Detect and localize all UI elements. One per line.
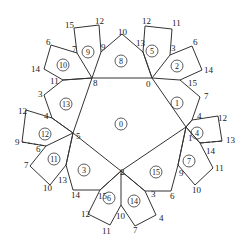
face-label: 6 bbox=[107, 194, 111, 203]
vertex-label: 14 bbox=[31, 64, 41, 74]
vertex-label: 9 bbox=[179, 168, 184, 178]
vertex-label: 1 bbox=[188, 133, 193, 143]
vertex-label: 7 bbox=[204, 91, 209, 101]
vertex-label: 6 bbox=[36, 144, 41, 154]
vertex-label: 2 bbox=[120, 167, 125, 177]
vertex-label: 3 bbox=[171, 43, 176, 53]
vertex-label: 4 bbox=[44, 111, 49, 121]
face-label: 15 bbox=[152, 168, 160, 177]
vertex-label: 13 bbox=[226, 135, 236, 145]
vertex-label: 11 bbox=[172, 18, 181, 28]
vertex-label: 15 bbox=[65, 20, 75, 30]
vertex-label: 6 bbox=[170, 191, 175, 201]
vertex-label: 10 bbox=[192, 185, 202, 195]
face-label: 7 bbox=[187, 157, 191, 166]
face-label: 14 bbox=[130, 197, 138, 206]
face-label: 1 bbox=[175, 99, 179, 108]
vertex-label: 11 bbox=[50, 76, 59, 86]
vertex-labels: 0812510913151271211361415741213141191063… bbox=[15, 16, 236, 236]
vertex-label: 10 bbox=[118, 27, 128, 37]
vertex-label: 3 bbox=[38, 89, 43, 99]
vertex-label: 12 bbox=[95, 16, 104, 26]
vertex-label: 12 bbox=[218, 113, 227, 123]
vertex-label: 13 bbox=[136, 38, 146, 48]
vertex-label: 12 bbox=[18, 106, 27, 116]
face-label: 9 bbox=[86, 48, 90, 57]
vertex-label: 4 bbox=[197, 111, 202, 121]
vertex-label: 12 bbox=[142, 16, 151, 26]
face-label: 3 bbox=[82, 166, 86, 175]
face-label: 12 bbox=[41, 130, 49, 139]
face-label: 2 bbox=[175, 62, 179, 71]
vertex-label: 14 bbox=[204, 65, 214, 75]
vertex-label: 10 bbox=[43, 183, 53, 193]
face-label: 5 bbox=[150, 47, 154, 56]
vertex-label: 3 bbox=[151, 189, 156, 199]
vertex-label: 4 bbox=[159, 213, 164, 223]
vertex-label: 7 bbox=[72, 44, 77, 54]
vertex-label: 7 bbox=[24, 160, 29, 170]
vertex-label: 10 bbox=[116, 211, 126, 221]
vertex-label: 6 bbox=[193, 37, 198, 47]
vertex-label: 0 bbox=[146, 79, 151, 89]
face-label: 11 bbox=[50, 155, 58, 164]
vertex-label: 11 bbox=[215, 163, 224, 173]
vertex-label: 13 bbox=[58, 175, 68, 185]
graph-diagram: 0812510913151271211361415741213141191063… bbox=[0, 0, 242, 251]
vertex-label: 14 bbox=[71, 190, 81, 200]
face-label: 13 bbox=[62, 100, 70, 109]
vertex-label: 11 bbox=[102, 226, 111, 236]
face-label: 0 bbox=[119, 120, 123, 129]
face-label: 8 bbox=[119, 57, 123, 66]
vertex-label: 5 bbox=[76, 131, 81, 141]
vertex-label: 9 bbox=[101, 42, 106, 52]
face-label: 4 bbox=[195, 129, 199, 138]
vertex-label: 9 bbox=[15, 137, 20, 147]
vertex-label: 12 bbox=[81, 209, 90, 219]
vertex-label: 6 bbox=[46, 37, 51, 47]
vertex-label: 14 bbox=[206, 146, 216, 156]
vertex-label: 15 bbox=[188, 78, 198, 88]
face-label: 10 bbox=[59, 61, 67, 70]
vertex-label: 8 bbox=[93, 78, 98, 88]
vertex-label: 7 bbox=[133, 225, 138, 235]
